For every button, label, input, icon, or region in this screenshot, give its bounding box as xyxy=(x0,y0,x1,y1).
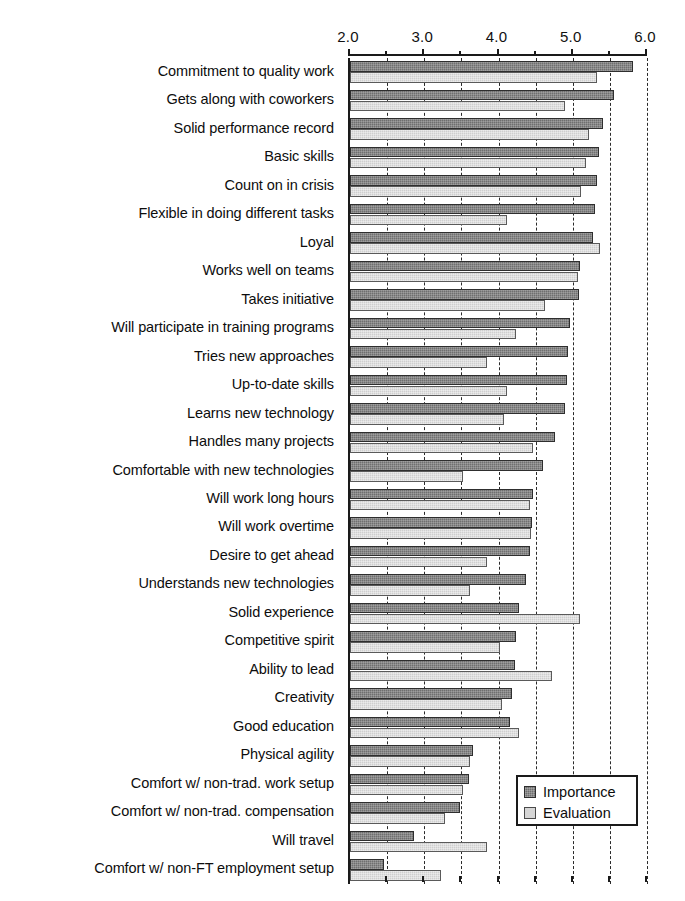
x-axis-line xyxy=(348,54,645,56)
x-axis-tick-label: 6.0 xyxy=(634,28,655,45)
bar-evaluation xyxy=(350,300,545,311)
bar-importance xyxy=(350,745,473,756)
axis-minor-tick xyxy=(385,51,387,56)
bar-evaluation xyxy=(350,870,441,881)
bar-importance xyxy=(350,489,533,500)
bar-evaluation xyxy=(350,671,552,682)
category-label: Commitment to quality work xyxy=(158,63,334,79)
category-label: Loyal xyxy=(300,234,334,250)
bar-importance xyxy=(350,831,414,842)
bar-importance xyxy=(350,432,555,443)
bar-evaluation xyxy=(350,642,500,653)
plot-area xyxy=(348,58,645,884)
bar-evaluation xyxy=(350,500,530,511)
bar-importance xyxy=(350,688,512,699)
category-label: Comfortable with new technologies xyxy=(112,462,334,478)
category-label: Comfort w/ non-trad. compensation xyxy=(111,803,334,819)
axis-bottom-tick xyxy=(534,876,536,882)
bar-evaluation xyxy=(350,842,487,853)
bar-evaluation xyxy=(350,243,600,254)
axis-minor-tick xyxy=(534,51,536,56)
axis-minor-tick xyxy=(459,51,461,56)
bar-importance xyxy=(350,261,580,272)
x-axis-tick-label: 2.0 xyxy=(337,28,358,45)
bar-importance xyxy=(350,232,593,243)
bar-evaluation xyxy=(350,471,463,482)
category-label: Ability to lead xyxy=(249,661,334,677)
bar-evaluation xyxy=(350,329,516,340)
bar-importance xyxy=(350,61,633,72)
axis-major-tick xyxy=(422,49,424,56)
bar-evaluation xyxy=(350,414,504,425)
legend-swatch-importance xyxy=(524,786,536,798)
bar-importance xyxy=(350,147,599,158)
bar-importance xyxy=(350,403,565,414)
axis-bottom-tick xyxy=(571,876,573,882)
axis-bottom-tick xyxy=(459,876,461,882)
category-label: Works well on teams xyxy=(202,262,334,278)
bar-evaluation xyxy=(350,357,487,368)
gridline xyxy=(647,58,648,884)
bar-importance xyxy=(350,717,510,728)
category-label: Understands new technologies xyxy=(139,575,335,591)
category-label: Will work overtime xyxy=(218,518,334,534)
axis-bottom-tick xyxy=(645,876,647,882)
category-label: Desire to get ahead xyxy=(209,547,334,563)
bar-importance xyxy=(350,574,526,585)
category-label: Will travel xyxy=(272,832,334,848)
axis-bottom-tick xyxy=(385,876,387,882)
axis-bottom-tick xyxy=(422,876,424,882)
bar-importance xyxy=(350,517,532,528)
category-label-column: Commitment to quality workGets along wit… xyxy=(0,58,342,884)
category-label: Creativity xyxy=(275,689,334,705)
bar-evaluation xyxy=(350,756,470,767)
bar-evaluation xyxy=(350,129,589,140)
chart-container: 2.03.04.05.06.0 Commitment to quality wo… xyxy=(0,0,685,901)
bar-importance xyxy=(350,289,579,300)
legend-item-evaluation: Evaluation xyxy=(524,802,630,823)
bar-importance xyxy=(350,346,568,357)
category-label: Takes initiative xyxy=(241,291,334,307)
category-label: Good education xyxy=(233,718,334,734)
category-label: Comfort w/ non-trad. work setup xyxy=(131,775,334,791)
category-label: Competitive spirit xyxy=(225,632,334,648)
legend-label-importance: Importance xyxy=(543,784,616,800)
category-label: Comfort w/ non-FT employment setup xyxy=(94,860,334,876)
category-label: Flexible in doing different tasks xyxy=(138,205,334,221)
bar-evaluation xyxy=(350,585,470,596)
bar-importance xyxy=(350,603,519,614)
axis-major-tick xyxy=(645,49,647,56)
legend-label-evaluation: Evaluation xyxy=(543,805,611,821)
category-label: Will participate in training programs xyxy=(111,319,334,335)
bar-evaluation xyxy=(350,158,586,169)
category-label: Count on in crisis xyxy=(225,177,334,193)
category-label: Tries new approaches xyxy=(194,348,334,364)
axis-minor-tick xyxy=(608,51,610,56)
category-label: Gets along with coworkers xyxy=(166,91,334,107)
category-label: Will work long hours xyxy=(206,490,334,506)
bar-importance xyxy=(350,318,570,329)
bar-evaluation xyxy=(350,614,580,625)
axis-major-tick xyxy=(497,49,499,56)
bar-evaluation xyxy=(350,443,533,454)
axis-bottom-tick xyxy=(348,876,350,882)
bar-evaluation xyxy=(350,699,502,710)
bar-evaluation xyxy=(350,272,578,283)
x-axis-tick-labels: 2.03.04.05.06.0 xyxy=(348,28,645,48)
bar-importance xyxy=(350,375,567,386)
bar-importance xyxy=(350,204,595,215)
category-label: Up-to-date skills xyxy=(232,376,334,392)
bar-importance xyxy=(350,546,530,557)
bar-importance xyxy=(350,802,460,813)
legend-swatch-evaluation xyxy=(524,807,536,819)
chart-legend: Importance Evaluation xyxy=(516,775,638,826)
bar-evaluation xyxy=(350,186,581,197)
bar-evaluation xyxy=(350,813,445,824)
x-axis-tick-label: 5.0 xyxy=(560,28,581,45)
gridline xyxy=(610,58,611,884)
bar-importance xyxy=(350,460,543,471)
category-label: Basic skills xyxy=(264,148,334,164)
bar-importance xyxy=(350,118,603,129)
legend-item-importance: Importance xyxy=(524,781,630,802)
bar-evaluation xyxy=(350,72,597,83)
